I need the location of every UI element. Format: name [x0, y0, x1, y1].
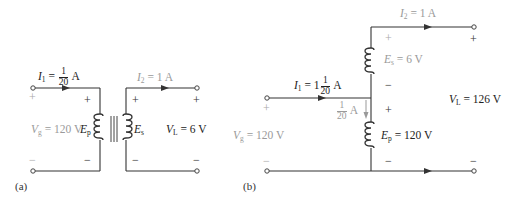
- branch-unit: A: [348, 104, 359, 116]
- branch-current-arrow: [364, 112, 369, 119]
- es-plus-sign: +: [132, 94, 139, 106]
- es-symbol-b: E: [384, 53, 391, 65]
- i1-equals: =: [46, 70, 58, 82]
- i1-numerator-b: 1: [321, 76, 331, 87]
- vl-value-b: = 126 V: [461, 93, 501, 105]
- input-terminal-bottom: [265, 169, 269, 173]
- vg-symbol-b: V: [233, 129, 240, 141]
- i1-denominator: 20: [59, 78, 69, 88]
- label-b-i1: I1 = 1120 A: [294, 76, 342, 96]
- vl-plus-sign-b: +: [470, 33, 477, 45]
- panel-a-caption: (a): [15, 180, 27, 192]
- vl-symbol: V: [166, 123, 173, 135]
- branch-denominator: 20: [337, 112, 347, 122]
- i1-equals-b: = 1: [302, 79, 320, 91]
- panel-b-caption: (b): [243, 180, 256, 192]
- i1-fraction-b: 120: [321, 76, 331, 96]
- es-minus-sign-b: −: [385, 79, 392, 91]
- output-terminal-bottom: [472, 169, 476, 173]
- i2-value-b: = 1 A: [408, 7, 437, 19]
- vg-plus-sign: +: [29, 91, 36, 103]
- series-secondary-coil: [365, 48, 371, 72]
- output-terminal-top: [472, 25, 476, 29]
- primary-coil-ends: [100, 114, 103, 140]
- branch-numerator: 1: [337, 101, 347, 112]
- es-plus-sign-b: +: [385, 32, 392, 44]
- i1-numerator: 1: [59, 67, 69, 78]
- label-a-i1: I1 = 120 A: [38, 67, 80, 87]
- panel-b-schematic: [265, 24, 476, 174]
- label-b-vl: VL = 126 V: [449, 94, 501, 107]
- ep-minus-sign: −: [84, 154, 91, 166]
- es-value-b: = 6 V: [394, 53, 423, 65]
- series-primary-coil: [365, 122, 371, 146]
- ep-subscript: p: [87, 128, 91, 137]
- label-b-es: Es = 6 V: [384, 54, 423, 67]
- i1-unit-b: A: [331, 79, 342, 91]
- secondary-terminal-bottom: [195, 169, 199, 173]
- i1-unit: A: [69, 70, 80, 82]
- return-arrow: [424, 168, 432, 174]
- label-a-es: Es: [134, 124, 144, 137]
- ep-minus-sign-b: −: [385, 155, 392, 167]
- label-a-ep: Ep: [80, 124, 91, 137]
- es-minus-sign: −: [132, 154, 139, 166]
- vg-plus-sign-b: +: [263, 102, 270, 114]
- primary-terminal-bottom: [31, 169, 35, 173]
- i1-fraction: 120: [59, 67, 69, 87]
- label-a-i2: I2 = 1 A: [137, 72, 173, 85]
- vg-minus-sign: −: [29, 154, 36, 166]
- series-secondary-coil-ends: [371, 48, 374, 74]
- vl-minus-sign: −: [193, 154, 200, 166]
- vl-symbol-b: V: [449, 93, 456, 105]
- label-a-vl: VL = 6 V: [166, 124, 207, 137]
- label-a-vg: Vg = 120 V: [31, 124, 82, 137]
- vg-symbol: V: [31, 123, 38, 135]
- branch-fraction: 120: [337, 101, 347, 121]
- i2-value: = 1 A: [145, 71, 174, 83]
- label-b-branch-current: 120 A: [336, 101, 358, 121]
- vg-value: = 120 V: [42, 123, 82, 135]
- es-symbol: E: [134, 123, 141, 135]
- ep-symbol-b: E: [381, 129, 388, 141]
- secondary-coil-ends: [123, 114, 126, 140]
- label-b-ep: Ep = 120 V: [381, 130, 432, 143]
- vl-plus-sign: +: [193, 94, 200, 106]
- label-b-vg: Vg = 120 V: [233, 130, 284, 143]
- primary-coil: [94, 114, 100, 138]
- i2-arrow-b: [424, 24, 432, 30]
- vg-value-b: = 120 V: [244, 129, 284, 141]
- vl-minus-sign-b: −: [470, 155, 477, 167]
- circuit-drawing: [0, 0, 512, 208]
- ep-plus-sign-b: +: [385, 104, 392, 116]
- ep-plus-sign: +: [84, 94, 91, 106]
- i2-arrow: [161, 85, 169, 91]
- secondary-coil: [126, 114, 132, 138]
- vg-minus-sign-b: −: [263, 155, 270, 167]
- ep-value-b: = 120 V: [392, 129, 432, 141]
- vl-value: = 6 V: [178, 123, 207, 135]
- i1-denominator-b: 20: [321, 87, 331, 97]
- series-primary-coil-ends: [371, 122, 374, 148]
- ep-symbol: E: [80, 123, 87, 135]
- secondary-terminal-top: [195, 86, 199, 90]
- label-b-i2: I2 = 1 A: [400, 8, 436, 21]
- es-subscript: s: [141, 128, 144, 137]
- input-terminal-top: [265, 96, 269, 100]
